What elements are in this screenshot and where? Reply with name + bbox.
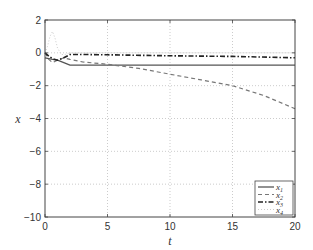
y-tick-label: −4 [30, 113, 42, 124]
line-chart: 0510152020−2−4−6−8−10 t x x1x2x3x4 [0, 0, 313, 250]
x-axis-label: t [168, 234, 172, 248]
series-x4 [45, 32, 295, 55]
x-tick-label: 20 [289, 221, 301, 232]
data-series [45, 32, 295, 109]
legend: x1x2x3x4 [255, 181, 293, 216]
x-tick-label: 15 [227, 221, 239, 232]
x-tick-label: 0 [42, 221, 48, 232]
y-tick-label: 2 [35, 15, 41, 26]
y-tick-label: −2 [30, 80, 42, 91]
x-tick-label: 5 [105, 221, 111, 232]
y-tick-label: −10 [24, 212, 41, 223]
y-tick-label: −8 [30, 179, 42, 190]
x-tick-label: 10 [164, 221, 176, 232]
y-tick-label: −6 [30, 146, 42, 157]
y-tick-label: 0 [35, 47, 41, 58]
y-axis-label: x [14, 112, 21, 126]
